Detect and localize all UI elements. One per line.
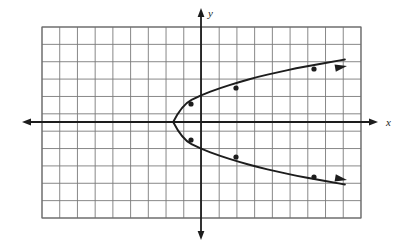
x-axis-label: x [385,116,391,128]
parabola-upper-branch [173,59,345,122]
plotted-point [233,154,238,159]
plotted-point [233,85,238,90]
coordinate-plane-graphic: x y [0,0,408,248]
parabola-lower-arrow-icon [335,174,347,181]
parabola-figure: x y [0,0,408,248]
plotted-point [311,66,316,71]
plotted-point [188,137,193,142]
y-axis-down-arrow-icon [198,231,205,240]
plotted-point [188,101,193,106]
x-axis-left-arrow-icon [22,119,31,126]
x-axis-right-arrow-icon [369,119,378,126]
y-axis-up-arrow-icon [198,8,205,17]
y-axis-label: y [207,7,213,19]
parabola-upper-arrow-icon [335,65,347,72]
plotted-points [188,66,316,179]
plotted-point [311,174,316,179]
